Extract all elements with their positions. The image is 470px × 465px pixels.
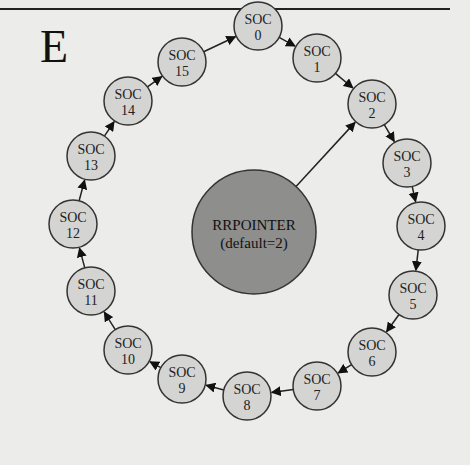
arrow-soc-11-to-12 <box>79 248 84 268</box>
soc-number: 0 <box>255 28 262 43</box>
soc-number: 9 <box>179 381 186 396</box>
arrow-soc-9-to-10 <box>150 362 161 368</box>
soc-number: 5 <box>410 297 417 312</box>
soc-node-10: SOC10 <box>104 326 152 374</box>
soc-node-1: SOC1 <box>293 34 341 82</box>
arrow-soc-0-to-1 <box>279 37 295 46</box>
soc-node-7: SOC7 <box>293 362 341 410</box>
soc-label: SOC <box>168 48 195 63</box>
arrow-soc-5-to-6 <box>387 314 399 331</box>
soc-label: SOC <box>303 44 330 59</box>
arrow-soc-1-to-2 <box>335 73 352 88</box>
soc-number: 10 <box>121 352 135 367</box>
soc-label: SOC <box>59 210 86 225</box>
soc-label: SOC <box>393 149 420 164</box>
soc-node-0: SOC0 <box>234 2 282 50</box>
arrow-soc-13-to-14 <box>104 122 114 136</box>
soc-number: 3 <box>404 165 411 180</box>
soc-node-14: SOC14 <box>104 77 152 125</box>
soc-number: 1 <box>314 60 321 75</box>
soc-number: 6 <box>369 354 376 369</box>
soc-label: SOC <box>407 212 434 227</box>
soc-node-5: SOC5 <box>389 271 437 319</box>
soc-node-12: SOC12 <box>49 200 97 248</box>
soc-number: 11 <box>84 293 97 308</box>
arrow-soc-12-to-13 <box>79 180 84 201</box>
soc-label: SOC <box>358 338 385 353</box>
soc-number: 12 <box>66 226 80 241</box>
arrow-soc-15-to-0 <box>204 37 236 52</box>
arrow-soc-4-to-5 <box>416 250 418 270</box>
soc-number: 13 <box>84 158 98 173</box>
soc-node-3: SOC3 <box>383 139 431 187</box>
rrpointer-default: (default=2) <box>220 235 288 252</box>
soc-label: SOC <box>399 281 426 296</box>
soc-node-15: SOC15 <box>158 38 206 86</box>
arrow-soc-7-to-8 <box>272 389 293 392</box>
soc-node-8: SOC8 <box>223 372 271 420</box>
soc-node-9: SOC9 <box>158 355 206 403</box>
soc-label: SOC <box>244 12 271 27</box>
soc-number: 8 <box>244 398 251 413</box>
soc-label: SOC <box>168 365 195 380</box>
arrow-soc-2-to-3 <box>384 125 394 142</box>
soc-number: 2 <box>369 106 376 121</box>
soc-node-4: SOC4 <box>397 202 445 250</box>
soc-node-13: SOC13 <box>67 132 115 180</box>
arrow-soc-10-to-11 <box>104 312 115 329</box>
round-robin-diagram: E RRPOINTER (default=2) SOC0SOC1SOC2SOC3… <box>0 0 470 465</box>
rrpointer-label: RRPOINTER <box>212 217 295 233</box>
soc-number: 15 <box>175 64 189 79</box>
soc-label: SOC <box>358 90 385 105</box>
soc-node-11: SOC11 <box>67 267 115 315</box>
soc-node-6: SOC6 <box>348 328 396 376</box>
arrow-soc-8-to-9 <box>206 385 224 390</box>
soc-number: 7 <box>314 388 321 403</box>
soc-label: SOC <box>77 142 104 157</box>
soc-node-2: SOC2 <box>348 80 396 128</box>
soc-number: 14 <box>121 103 135 118</box>
soc-label: SOC <box>303 372 330 387</box>
arrow-soc-6-to-7 <box>338 365 351 373</box>
arrow-soc-3-to-4 <box>412 186 415 201</box>
soc-number: 4 <box>418 228 425 243</box>
pointer-arrow <box>296 122 355 186</box>
rrpointer-node: RRPOINTER (default=2) <box>192 170 316 294</box>
soc-label: SOC <box>77 277 104 292</box>
soc-label: SOC <box>114 336 141 351</box>
soc-label: SOC <box>114 87 141 102</box>
panel-label: E <box>40 21 68 72</box>
soc-label: SOC <box>233 382 260 397</box>
arrow-soc-14-to-15 <box>147 77 161 87</box>
